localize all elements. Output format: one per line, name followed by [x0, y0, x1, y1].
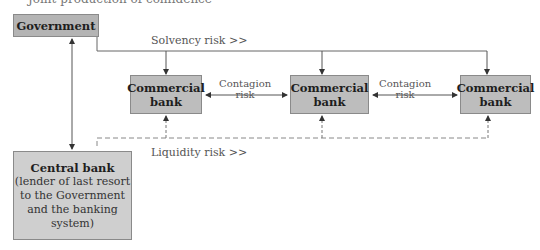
- liquidity-risk-label: Liquidity risk >>: [151, 146, 247, 159]
- central-bank-desc: and the banking: [27, 203, 118, 217]
- central-bank-desc: system): [51, 217, 94, 231]
- government-node: Government: [13, 14, 99, 37]
- contagion-risk-label: Contagion risk: [219, 78, 271, 100]
- government-label: Government: [16, 19, 95, 33]
- central-bank-node: Central bank (lender of last resort to t…: [13, 151, 132, 240]
- bank-label: bank: [314, 95, 346, 109]
- central-bank-desc: to the Government: [20, 189, 125, 203]
- contagion-line: risk: [219, 89, 271, 100]
- contagion-line: Contagion: [379, 78, 431, 89]
- central-bank-desc: (lender of last resort: [15, 175, 130, 189]
- contagion-risk-label: Contagion risk: [379, 78, 431, 100]
- bank-label: bank: [150, 95, 182, 109]
- bank-label: Commercial: [457, 81, 535, 95]
- bank-label: bank: [480, 95, 512, 109]
- central-bank-title: Central bank: [31, 161, 115, 175]
- solvency-risk-label: Solvency risk >>: [151, 34, 247, 47]
- commercial-bank-node: Commercial bank: [460, 75, 531, 114]
- bank-label: Commercial: [127, 81, 205, 95]
- contagion-line: risk: [379, 89, 431, 100]
- commercial-bank-node: Commercial bank: [130, 75, 202, 114]
- commercial-bank-node: Commercial bank: [290, 75, 369, 114]
- contagion-line: Contagion: [219, 78, 271, 89]
- bank-label: Commercial: [291, 81, 369, 95]
